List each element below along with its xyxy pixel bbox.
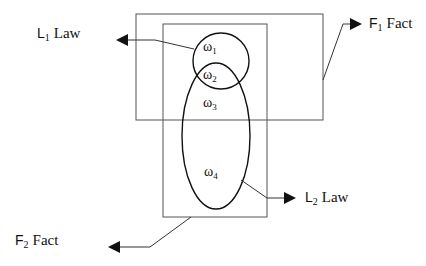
l2-arrowhead-icon — [284, 192, 296, 204]
region-omega-2: ω2 — [203, 68, 217, 84]
l1-arrowhead-icon — [116, 34, 128, 46]
l1-law-circle — [193, 33, 249, 89]
f2-arrowhead-icon — [108, 241, 120, 253]
l1-connector-line — [124, 40, 194, 49]
f2-fact-label: F2Fact — [15, 233, 58, 250]
region-omega-1: ω1 — [203, 40, 217, 56]
region-omega-3: ω3 — [203, 96, 217, 112]
l2-law-label: L2Law — [305, 190, 348, 207]
f1-fact-box — [136, 14, 323, 120]
f1-connector-line — [323, 24, 352, 80]
f2-connector-line — [118, 217, 191, 247]
region-omega-4: ω4 — [204, 165, 218, 181]
l2-connector-line — [241, 180, 286, 198]
l2-law-ellipse — [182, 63, 250, 209]
l1-law-label: L1Law — [37, 26, 80, 43]
f1-arrowhead-icon — [350, 18, 362, 30]
f1-fact-label: F1Fact — [369, 16, 412, 33]
